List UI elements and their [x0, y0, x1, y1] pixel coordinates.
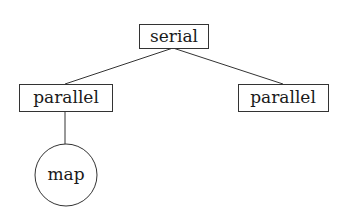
node-map: map	[35, 144, 97, 206]
tree-diagram: serial parallel parallel map	[0, 0, 344, 222]
edge-serial-to-parallel-left	[65, 48, 173, 84]
node-parallel-right: parallel	[239, 85, 329, 112]
node-parallel-left-label: parallel	[33, 87, 99, 107]
node-serial: serial	[140, 25, 209, 49]
node-serial-label: serial	[150, 26, 198, 46]
node-map-label: map	[47, 164, 84, 184]
node-parallel-right-label: parallel	[250, 87, 316, 107]
node-parallel-left: parallel	[20, 85, 113, 112]
edge-serial-to-parallel-right	[173, 48, 283, 84]
